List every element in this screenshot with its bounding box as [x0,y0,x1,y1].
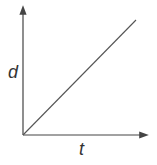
x-axis-label: t [79,139,84,160]
data-line [23,20,136,135]
y-axis-label: d [8,62,18,83]
